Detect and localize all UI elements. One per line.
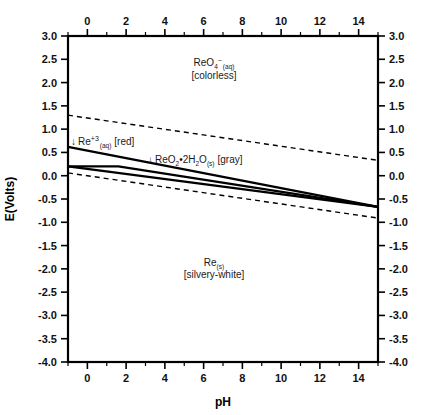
left-axis-tick-label: -4.0 <box>38 356 57 368</box>
bottom-axis-tick-label: 12 <box>314 372 326 384</box>
left-axis-tick-label: 1.5 <box>42 100 57 112</box>
pourbaix-diagram-svg: 02468101214 02468101214 3.02.52.01.51.00… <box>0 0 424 415</box>
right-axis-tick-label: 0.5 <box>389 146 404 158</box>
top-axis-tick-label: 8 <box>239 15 245 27</box>
reo4-subscript: 4 <box>214 63 218 70</box>
re3-state: (aq) <box>100 142 112 150</box>
top-axis-tick-label: 0 <box>84 15 90 27</box>
right-axis-tick-label: -3.0 <box>389 309 408 321</box>
right-axis-tick-label: 2.5 <box>389 53 404 65</box>
reo4-descriptor: [colorless] <box>191 70 236 81</box>
reo2-species-a: ReO <box>155 154 176 165</box>
top-axis-tick-label: 6 <box>201 15 207 27</box>
bottom-axis-tick-label: 6 <box>201 372 207 384</box>
right-axis-tick-label: -2.5 <box>389 286 408 298</box>
left-axis-tick-label: -3.0 <box>38 309 57 321</box>
right-axis-tick-label: 2.0 <box>389 77 404 89</box>
bottom-axis-tick-label: 4 <box>162 372 169 384</box>
pourbaix-diagram-figure: 02468101214 02468101214 3.02.52.01.51.00… <box>0 0 424 415</box>
top-axis-tick-label: 2 <box>123 15 129 27</box>
left-axis-tick-label: -3.5 <box>38 333 57 345</box>
y-axis-title: E(Volts) <box>3 177 17 221</box>
bottom-axis-tick-label: 14 <box>353 372 366 384</box>
right-axis-tick-label: 0.0 <box>389 170 404 182</box>
left-axis-tick-label: -0.5 <box>38 193 57 205</box>
right-axis-tick-label: -1.0 <box>389 216 408 228</box>
bottom-axis-tick-label: 0 <box>84 372 90 384</box>
top-axis-tick-label: 4 <box>162 15 169 27</box>
top-axis-tick-label: 10 <box>275 15 287 27</box>
right-axis-tick-label: 1.5 <box>389 100 404 112</box>
left-axis-tick-label: 1.0 <box>42 123 57 135</box>
reo4-superscript: − <box>218 57 222 64</box>
right-axis-tick-label: -3.5 <box>389 333 408 345</box>
re3-arrow: ↓ <box>71 136 76 147</box>
re-species-text: Re <box>204 257 217 268</box>
bottom-axis-tick-label: 8 <box>239 372 245 384</box>
left-axis-tick-label: 0.5 <box>42 146 57 158</box>
right-axis-tick-label: -1.5 <box>389 240 408 252</box>
left-axis-tick-label: -1.5 <box>38 240 57 252</box>
right-axis-tick-label: -2.0 <box>389 263 408 275</box>
right-axis-tick-label: -4.0 <box>389 356 408 368</box>
top-axis-tick-label: 14 <box>353 15 366 27</box>
right-axis-tick-label: 1.0 <box>389 123 404 135</box>
right-axis-tick-label: 3.0 <box>389 30 404 42</box>
right-axis-tick-label: -0.5 <box>389 193 408 205</box>
left-axis-tick-label: -2.0 <box>38 263 57 275</box>
reo4-species-text: ReO <box>194 57 215 68</box>
reo2-arrow: ↓ <box>148 154 153 165</box>
bottom-axis-tick-label: 2 <box>123 372 129 384</box>
left-axis-tick-label: 3.0 <box>42 30 57 42</box>
re3-superscript: +3 <box>91 135 99 142</box>
left-axis-tick-label: 2.5 <box>42 53 57 65</box>
re-descriptor: [silvery-white] <box>184 269 245 280</box>
bottom-axis-tick-label: 10 <box>275 372 287 384</box>
top-axis-tick-label: 12 <box>314 15 326 27</box>
reo2-dot: •2H <box>179 154 195 165</box>
reo2-state: (s) <box>207 160 215 168</box>
x-axis-title: pH <box>215 395 231 409</box>
left-axis-tick-labels: 3.02.52.01.51.00.50.0-0.5-1.0-1.5-2.0-2.… <box>38 30 57 368</box>
re3-species-text: Re <box>78 136 91 147</box>
left-axis-tick-label: -2.5 <box>38 286 57 298</box>
right-axis-tick-labels: 3.02.52.01.51.00.50.0-0.5-1.0-1.5-2.0-2.… <box>389 30 408 368</box>
left-axis-tick-label: 2.0 <box>42 77 57 89</box>
left-axis-tick-label: -1.0 <box>38 216 57 228</box>
reo2-descriptor: [gray] <box>217 154 242 165</box>
bottom-axis-tick-labels: 02468101214 <box>84 372 365 384</box>
top-axis-tick-labels: 02468101214 <box>84 15 365 27</box>
left-axis-tick-label: 0.0 <box>42 170 57 182</box>
re3-descriptor: [red] <box>114 136 134 147</box>
